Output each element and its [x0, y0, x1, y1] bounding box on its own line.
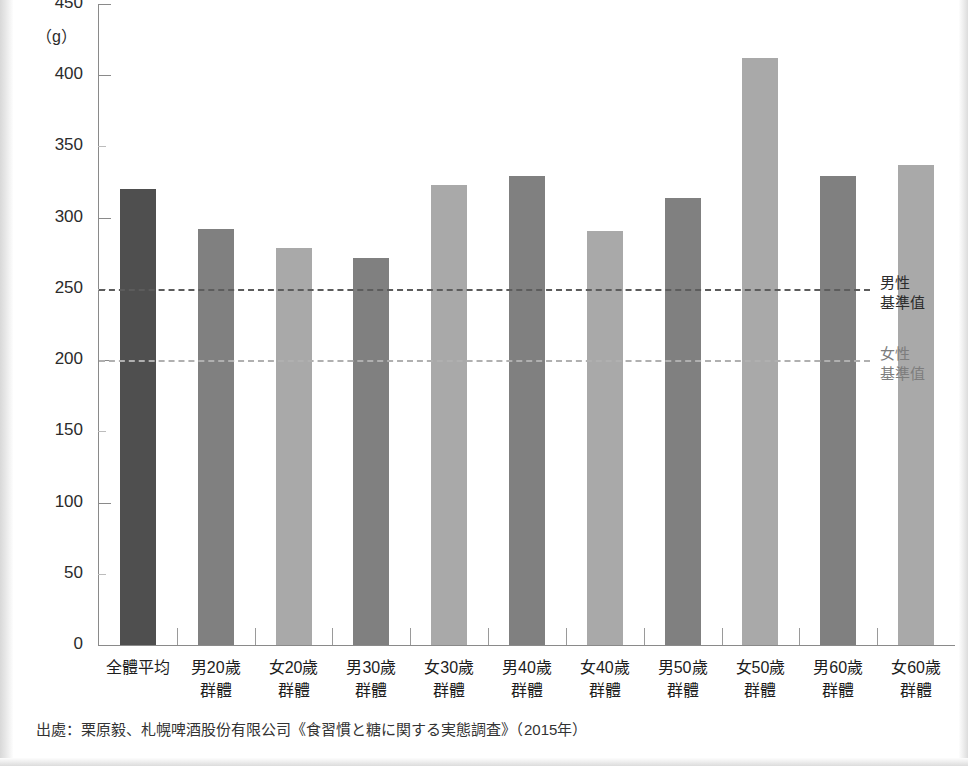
x-axis-tick-mark	[877, 628, 878, 645]
x-axis-tick-mark	[410, 628, 411, 645]
page-edge-bottom	[0, 758, 968, 766]
bar-8	[665, 198, 701, 645]
y-axis-unit-label: （g）	[36, 23, 77, 47]
bar-chart: （g） 050100150200250300350400450 男性基準值女性基…	[0, 0, 968, 712]
reference-label-line1: 男性	[880, 273, 925, 293]
x-axis-tick-mark	[566, 628, 567, 645]
bar-7	[587, 231, 623, 646]
bar-4	[353, 258, 389, 645]
y-axis-tick-label: 50	[0, 563, 83, 583]
bar-3	[276, 248, 312, 645]
reference-label-line2: 基準值	[880, 364, 925, 384]
reference-label-line1: 女性	[880, 344, 925, 364]
y-axis-tick-label: 250	[0, 278, 83, 298]
y-axis-tick-mark	[98, 645, 111, 646]
x-axis-tick-mark	[722, 628, 723, 645]
y-axis-tick-label: 200	[0, 349, 83, 369]
bar-10	[820, 176, 856, 645]
y-axis-tick-label: 450	[0, 0, 83, 13]
bar-11	[898, 165, 934, 645]
reference-line-male	[99, 289, 870, 291]
reference-line-label-female: 女性基準值	[880, 344, 925, 384]
bar-5	[431, 185, 467, 645]
bar-1	[120, 189, 156, 645]
plot-area	[99, 4, 955, 645]
reference-line-female	[99, 360, 870, 362]
x-axis-tick-mark	[332, 628, 333, 645]
x-axis-tick-mark	[488, 628, 489, 645]
chart-page: （g） 050100150200250300350400450 男性基準值女性基…	[0, 0, 968, 766]
y-axis-tick-label: 100	[0, 492, 83, 512]
x-axis-line	[98, 645, 955, 646]
y-axis-tick-label: 300	[0, 207, 83, 227]
category-label-line1: 女60歲	[856, 656, 968, 679]
x-axis-category-label: 女60歲群體	[856, 656, 968, 702]
source-note: 出處：栗原毅、札幌啤酒股份有限公司《食習慣と糖に関する実態調査》（2015年）	[36, 718, 587, 739]
bar-9	[742, 58, 778, 645]
reference-label-line2: 基準值	[880, 293, 925, 313]
category-label-line2: 群體	[856, 679, 968, 702]
y-axis-tick-label: 0	[0, 634, 83, 654]
y-axis-tick-label: 350	[0, 135, 83, 155]
x-axis-tick-mark	[255, 628, 256, 645]
reference-line-label-male: 男性基準值	[880, 273, 925, 313]
x-axis-tick-mark	[177, 628, 178, 645]
bar-2	[198, 229, 234, 645]
y-axis-tick-label: 150	[0, 420, 83, 440]
y-axis-tick-label: 400	[0, 64, 83, 84]
x-axis-tick-mark	[644, 628, 645, 645]
x-axis-tick-mark	[799, 628, 800, 645]
bar-6	[509, 176, 545, 645]
